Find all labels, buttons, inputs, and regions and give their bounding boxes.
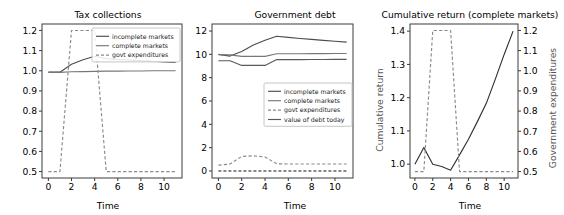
y-tick-label: 0.9 <box>22 85 37 96</box>
x-tick-label: 8 <box>483 181 489 192</box>
y-tick-label: 0.8 <box>22 105 37 116</box>
x-tick-label: 0 <box>45 181 51 192</box>
x-axis-label: Time <box>283 200 307 211</box>
y-tick-label-right: 0.9 <box>523 85 538 96</box>
panel-title: Cumulative return (complete markets) <box>382 9 559 20</box>
legend-label: complete markets <box>284 97 340 105</box>
x-tick-label: 2 <box>69 181 75 192</box>
y-tick-label-right: 1.0 <box>523 65 538 76</box>
y-tick-label: 0 <box>201 165 207 176</box>
legend-label: govt expenditures <box>284 106 340 114</box>
x-tick-label: 10 <box>329 181 341 192</box>
y-tick-label-right: 0.5 <box>523 166 538 177</box>
x-tick-label: 2 <box>430 181 436 192</box>
series-value-of-debt-today <box>218 59 346 65</box>
x-tick-label: 6 <box>285 181 291 192</box>
y-tick-label: 1.1 <box>22 45 37 56</box>
y-tick-label-right: 0.8 <box>523 105 538 116</box>
panel-title: Tax collections <box>74 9 142 20</box>
x-tick-label: 4 <box>262 181 268 192</box>
x-tick-label: 10 <box>158 181 170 192</box>
series-govt-expenditures <box>218 156 346 165</box>
panel-tax-collections: Tax collections 02468100.50.60.70.80.91.… <box>0 0 190 215</box>
x-tick-label: 0 <box>215 181 221 192</box>
legend-label: incomplete markets <box>284 88 346 96</box>
y-tick-label: 2 <box>201 142 207 153</box>
series-cumulative-return <box>415 31 513 170</box>
y-tick-label-right: 0.7 <box>523 126 538 137</box>
y-tick-label: 1.2 <box>390 92 405 103</box>
y-tick-label-right: 1.1 <box>523 45 538 56</box>
y-tick-label: 8 <box>201 72 207 83</box>
y-tick-label: 6 <box>201 95 207 106</box>
y-tick-label: 1.0 <box>390 158 405 169</box>
x-tick-label: 8 <box>309 181 315 192</box>
y-tick-label: 1.4 <box>390 25 405 36</box>
panel-cumulative-return: Cumulative return (complete markets) 024… <box>370 0 564 215</box>
x-tick-label: 2 <box>239 181 245 192</box>
series-complete-markets <box>218 54 346 57</box>
y-tick-label-right: 1.2 <box>523 25 538 36</box>
x-tick-label: 10 <box>498 181 510 192</box>
legend-label: incomplete markets <box>112 33 174 41</box>
legend-label: complete markets <box>112 42 168 50</box>
y-tick-label: 0.5 <box>22 166 37 177</box>
tax-collections-svg: Tax collections 02468100.50.60.70.80.91.… <box>0 0 190 215</box>
legend-label: govt expenditures <box>112 51 168 59</box>
y-tick-label-right: 0.6 <box>523 146 538 157</box>
y-tick-label: 0.7 <box>22 126 37 137</box>
y-tick-label: 1.2 <box>22 25 37 36</box>
x-axis-label: Time <box>458 200 482 211</box>
figure-canvas: Tax collections 02468100.50.60.70.80.91.… <box>0 0 564 215</box>
legend-label: value of debt today <box>284 116 345 124</box>
series-govt-expenditures <box>415 30 513 171</box>
y-tick-label: 1.0 <box>22 65 37 76</box>
x-tick-label: 0 <box>412 181 418 192</box>
y-tick-label: 0.6 <box>22 146 37 157</box>
x-axis-label: Time <box>96 200 120 211</box>
cumulative-return-svg: Cumulative return (complete markets) 024… <box>370 0 564 215</box>
panel-title: Government debt <box>254 9 336 20</box>
x-tick-label: 4 <box>448 181 454 192</box>
x-tick-label: 6 <box>115 181 121 192</box>
series-complete-markets <box>48 71 175 73</box>
y-tick-label: 1.3 <box>390 59 405 70</box>
y-tick-label: 10 <box>195 49 207 60</box>
plot-frame <box>410 24 518 178</box>
y-tick-label: 1.1 <box>390 125 405 136</box>
x-tick-label: 4 <box>92 181 98 192</box>
y-tick-label: 4 <box>201 119 207 130</box>
y-axis-label-left: Cumulative return <box>374 68 385 152</box>
x-tick-label: 6 <box>466 181 472 192</box>
y-tick-label: 12 <box>195 25 207 36</box>
government-debt-svg: Government debt 0246810024681012 incompl… <box>185 0 375 215</box>
x-tick-label: 8 <box>138 181 144 192</box>
panel-government-debt: Government debt 0246810024681012 incompl… <box>185 0 375 215</box>
y-axis-label-right: Government expenditures <box>547 48 558 168</box>
